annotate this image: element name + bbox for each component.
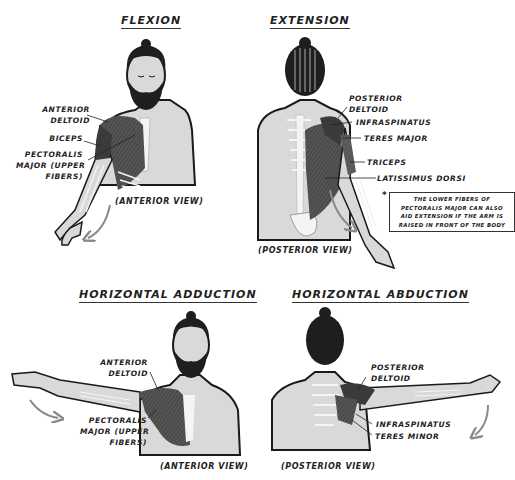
flexion-title: FLEXION bbox=[121, 14, 181, 29]
label-latissimus-dorsi: LATISSIMUS DORSI bbox=[377, 173, 466, 184]
label-posterior-deltoid-2: POSTERIORDELTOID bbox=[371, 362, 425, 384]
label-anterior-deltoid-2: ANTERIORDELTOID bbox=[96, 357, 148, 379]
label-pectoralis-major-2: PECTORALISMAJOR (UPPERFIBERS) bbox=[80, 415, 147, 448]
label-posterior-deltoid: POSTERIORDELTOID bbox=[349, 93, 403, 115]
label-teres-minor: TERES MINOR bbox=[375, 431, 439, 442]
horizontal-adduction-view-label: (ANTERIOR VIEW) bbox=[160, 462, 248, 471]
extension-title: EXTENSION bbox=[270, 14, 350, 29]
extension-view-label: (POSTERIOR VIEW) bbox=[258, 246, 353, 255]
label-infraspinatus: INFRASPINATUS bbox=[356, 117, 431, 128]
label-triceps: TRICEPS bbox=[367, 157, 406, 168]
pectoralis-note-box: THE LOWER FIBERS OF PECTORALIS MAJOR CAN… bbox=[389, 192, 515, 232]
extension-figure bbox=[258, 37, 394, 268]
flexion-view-label: (ANTERIOR VIEW) bbox=[115, 197, 203, 206]
asterisk-marker: * bbox=[382, 190, 387, 200]
label-pectoralis-major: PECTORALISMAJOR (UPPERFIBERS) bbox=[16, 149, 83, 182]
label-anterior-deltoid: ANTERIORDELTOID bbox=[38, 104, 90, 126]
label-teres-major: TERES MAJOR bbox=[364, 133, 428, 144]
label-infraspinatus-2: INFRASPINATUS bbox=[376, 419, 451, 430]
label-biceps: BICEPS bbox=[38, 133, 83, 144]
horizontal-abduction-title: HORIZONTAL ABDUCTION bbox=[292, 288, 469, 303]
horizontal-adduction-title: HORIZONTAL ADDUCTION bbox=[79, 288, 257, 303]
horizontal-abduction-view-label: (POSTERIOR VIEW) bbox=[281, 462, 376, 471]
